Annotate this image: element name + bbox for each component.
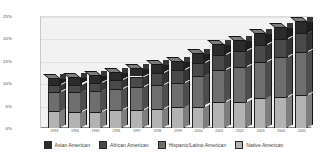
bar-segment[interactable] bbox=[295, 52, 309, 95]
bar-segment[interactable] bbox=[274, 97, 288, 128]
bar-segment[interactable] bbox=[274, 39, 288, 57]
bar-segment[interactable] bbox=[68, 92, 82, 112]
bar-segment[interactable] bbox=[192, 53, 206, 63]
bar-segment[interactable] bbox=[254, 98, 268, 128]
bar-segment-side bbox=[80, 90, 87, 112]
bar-segment-side bbox=[265, 42, 272, 61]
bar-top-cap-side bbox=[225, 40, 231, 45]
bar-segment[interactable] bbox=[233, 40, 247, 51]
bar-segment[interactable] bbox=[151, 64, 165, 73]
bar-column[interactable] bbox=[233, 16, 247, 128]
bar-segment[interactable] bbox=[212, 55, 226, 70]
bar-segment[interactable] bbox=[89, 75, 103, 83]
bar-segment[interactable] bbox=[171, 107, 185, 128]
bar-segment[interactable] bbox=[233, 67, 247, 101]
bar-segment[interactable] bbox=[254, 33, 268, 45]
y-axis-tick-label: 10% bbox=[0, 81, 12, 86]
bar-top-cap bbox=[43, 74, 61, 79]
bar-column[interactable] bbox=[254, 16, 268, 128]
bar-column[interactable] bbox=[212, 16, 226, 128]
bar-segment-side bbox=[224, 100, 231, 128]
bar-segment[interactable] bbox=[89, 91, 103, 112]
legend-swatch-icon bbox=[44, 141, 52, 149]
bar-segment[interactable] bbox=[130, 68, 144, 77]
bar-segment[interactable] bbox=[212, 44, 226, 55]
legend-item-label: Native American bbox=[246, 142, 283, 148]
bar-segment[interactable] bbox=[295, 95, 309, 128]
bar-segment[interactable] bbox=[171, 61, 185, 70]
bar-segment[interactable] bbox=[192, 63, 206, 77]
bar-column[interactable] bbox=[68, 16, 82, 128]
bar-segment-side bbox=[100, 89, 107, 112]
bar-segment-side bbox=[265, 59, 272, 98]
bar-top-cap bbox=[249, 29, 267, 34]
bar-segment[interactable] bbox=[233, 102, 247, 128]
bar-segment[interactable] bbox=[109, 89, 123, 110]
bar-segment[interactable] bbox=[212, 70, 226, 102]
bar-segment-side bbox=[306, 92, 313, 128]
bar-segment[interactable] bbox=[192, 76, 206, 106]
bar-segment[interactable] bbox=[48, 111, 62, 128]
bars-layer bbox=[44, 16, 312, 128]
bar-column[interactable] bbox=[295, 16, 309, 128]
bar-segment-side bbox=[183, 105, 190, 128]
legend-item[interactable]: Native American bbox=[235, 141, 283, 149]
bar-segment[interactable] bbox=[254, 62, 268, 99]
bar-column[interactable] bbox=[151, 16, 165, 128]
bar-segment[interactable] bbox=[295, 21, 309, 34]
bar-segment[interactable] bbox=[68, 77, 82, 84]
bar-segment-side bbox=[100, 109, 107, 128]
legend-swatch-icon bbox=[99, 141, 107, 149]
legend-item-label: Asian American bbox=[55, 142, 90, 148]
bar-segment[interactable] bbox=[130, 87, 144, 110]
bar-segment[interactable] bbox=[295, 33, 309, 52]
legend-item-label: African American bbox=[110, 142, 149, 148]
bar-segment[interactable] bbox=[192, 107, 206, 129]
legend-swatch-icon bbox=[235, 141, 243, 149]
bar-segment[interactable] bbox=[171, 83, 185, 108]
bar-segment[interactable] bbox=[48, 78, 62, 85]
bar-column[interactable] bbox=[192, 16, 206, 128]
bar-segment[interactable] bbox=[130, 110, 144, 128]
bar-segment-side bbox=[224, 68, 231, 103]
bar-segment[interactable] bbox=[48, 92, 62, 112]
bar-segment-side bbox=[245, 49, 252, 68]
y-axis-tick-label: 5% bbox=[0, 103, 12, 108]
bar-segment[interactable] bbox=[151, 109, 165, 128]
bar-top-cap-side bbox=[246, 36, 252, 41]
bar-segment[interactable] bbox=[233, 51, 247, 67]
legend-item[interactable]: African American bbox=[99, 141, 149, 149]
bar-top-cap-side bbox=[204, 49, 210, 54]
legend-item[interactable]: Hispanic/Latino American bbox=[158, 141, 227, 149]
legend-item[interactable]: Asian American bbox=[44, 141, 90, 149]
bar-segment[interactable] bbox=[109, 80, 123, 89]
bar-segment[interactable] bbox=[109, 72, 123, 80]
bar-segment[interactable] bbox=[68, 85, 82, 93]
bar-segment[interactable] bbox=[212, 102, 226, 128]
bar-segment-side bbox=[59, 109, 66, 128]
bar-segment[interactable] bbox=[68, 112, 82, 128]
bar-top-cap-side bbox=[163, 60, 169, 65]
bar-segment[interactable] bbox=[274, 57, 288, 97]
bar-segment[interactable] bbox=[130, 77, 144, 87]
bar-segment[interactable] bbox=[89, 83, 103, 92]
bar-segment[interactable] bbox=[151, 73, 165, 85]
bar-segment-side bbox=[286, 54, 293, 97]
bar-column[interactable] bbox=[89, 16, 103, 128]
bar-segment[interactable] bbox=[89, 112, 103, 128]
bar-column[interactable] bbox=[109, 16, 123, 128]
bar-segment[interactable] bbox=[48, 85, 62, 92]
bar-segment[interactable] bbox=[171, 70, 185, 83]
bar-column[interactable] bbox=[130, 16, 144, 128]
bar-column[interactable] bbox=[171, 16, 185, 128]
bar-top-cap-side bbox=[266, 29, 272, 34]
bar-segment[interactable] bbox=[151, 85, 165, 109]
bar-segment[interactable] bbox=[109, 110, 123, 128]
bar-segment[interactable] bbox=[254, 45, 268, 62]
bar-column[interactable] bbox=[274, 16, 288, 128]
x-axis-tick-label: 2005 bbox=[289, 129, 315, 133]
bar-column[interactable] bbox=[48, 16, 62, 128]
bar-segment[interactable] bbox=[274, 27, 288, 39]
bar-segment-side bbox=[306, 49, 313, 94]
bar-top-cap bbox=[187, 49, 205, 54]
